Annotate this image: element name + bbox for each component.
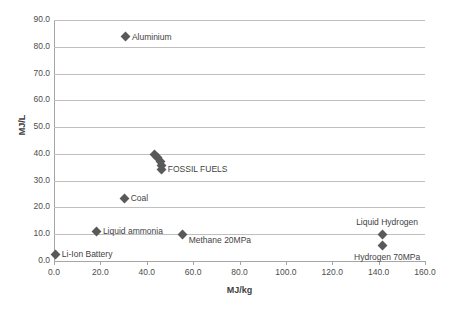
y-axis-tick-label: 10.0 bbox=[0, 228, 50, 238]
y-axis-tick-label: 0.0 bbox=[0, 255, 50, 265]
x-axis-tick-mark bbox=[425, 261, 426, 265]
x-axis-tick-label: 20.0 bbox=[75, 267, 125, 277]
data-point-label: Liquid Hydrogen bbox=[356, 217, 418, 227]
gridline bbox=[54, 100, 425, 101]
x-axis-tick-label: 100.0 bbox=[261, 267, 311, 277]
data-point-label: Hydrogen 70MPa bbox=[354, 252, 420, 262]
x-axis-tick-mark bbox=[100, 261, 101, 265]
gridline bbox=[54, 181, 425, 182]
data-point-label: Coal bbox=[131, 193, 148, 203]
data-point-label: Aluminium bbox=[132, 32, 172, 42]
data-point-label: Methane 20MPa bbox=[189, 235, 251, 245]
y-axis-line bbox=[54, 20, 55, 261]
energy-density-scatter-chart: 0.010.020.030.040.050.060.070.080.090.0 … bbox=[0, 0, 449, 310]
y-axis-tick-label: 90.0 bbox=[0, 14, 50, 24]
y-axis-tick-label: 80.0 bbox=[0, 41, 50, 51]
x-axis-tick-mark bbox=[193, 261, 194, 265]
x-axis-tick-mark bbox=[240, 261, 241, 265]
x-axis-tick-mark bbox=[147, 261, 148, 265]
x-axis-tick-label: 60.0 bbox=[168, 267, 218, 277]
data-point-label: FOSSIL FUELS bbox=[168, 164, 228, 174]
x-axis-tick-label: 140.0 bbox=[354, 267, 404, 277]
y-axis-tick-label: 30.0 bbox=[0, 175, 50, 185]
x-axis-tick-mark bbox=[54, 261, 55, 265]
x-axis-tick-label: 80.0 bbox=[215, 267, 265, 277]
gridline bbox=[54, 207, 425, 208]
x-axis-tick-label: 160.0 bbox=[400, 267, 449, 277]
data-point-label: Liquid ammonia bbox=[103, 226, 163, 236]
y-axis-title: MJ/L bbox=[17, 105, 27, 145]
x-axis-tick-mark bbox=[332, 261, 333, 265]
y-axis-tick-label: 70.0 bbox=[0, 68, 50, 78]
x-axis-tick-label: 0.0 bbox=[29, 267, 79, 277]
y-axis-tick-label: 40.0 bbox=[0, 148, 50, 158]
data-point-label: Li-Ion Battery bbox=[62, 249, 113, 259]
y-axis-tick-label: 20.0 bbox=[0, 201, 50, 211]
gridline bbox=[54, 74, 425, 75]
gridline bbox=[54, 154, 425, 155]
x-axis-tick-label: 40.0 bbox=[122, 267, 172, 277]
x-axis-tick-label: 120.0 bbox=[307, 267, 357, 277]
gridline bbox=[54, 20, 425, 21]
x-axis-title: MJ/kg bbox=[54, 285, 425, 295]
y-axis-tick-label: 60.0 bbox=[0, 94, 50, 104]
gridline bbox=[54, 47, 425, 48]
x-axis-tick-mark bbox=[286, 261, 287, 265]
gridline bbox=[54, 127, 425, 128]
